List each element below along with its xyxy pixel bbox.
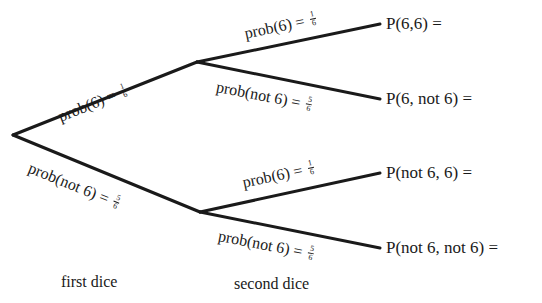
tree-lines xyxy=(0,0,542,303)
outcome-not-six-not-six: P(not 6, not 6) = xyxy=(386,239,498,256)
outcome-six-six: P(6,6) = xyxy=(386,15,442,32)
outcome-six-not-six: P(6, not 6) = xyxy=(386,90,472,107)
outcome-not-six-six: P(not 6, 6) = xyxy=(386,164,472,181)
stage-label-second-dice: second dice xyxy=(234,276,309,292)
stage-label-first-dice: first dice xyxy=(61,274,117,290)
